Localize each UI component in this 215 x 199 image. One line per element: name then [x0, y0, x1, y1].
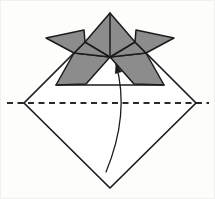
origami-diagram-page: [0, 0, 215, 199]
origami-step-diagram: [0, 0, 215, 199]
